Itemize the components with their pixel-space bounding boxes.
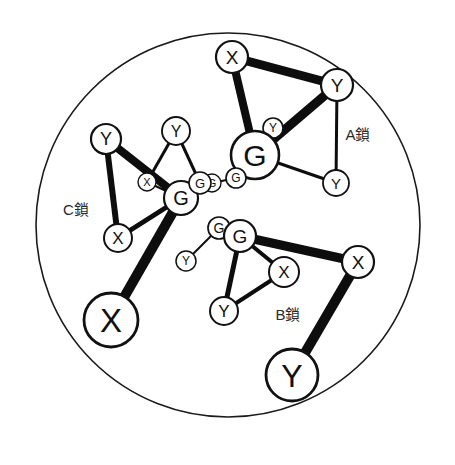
node-b-g-main[interactable]: G [224, 220, 256, 252]
node-c-y-left[interactable]: Y [91, 124, 121, 154]
node-label-a-y-lower: Y [331, 175, 341, 192]
node-label-b-y-small: Y [182, 254, 190, 268]
node-label-c-y-top: Y [171, 123, 182, 140]
node-label-c-g-main: G [173, 187, 189, 209]
node-label-c-x-small: X [143, 176, 151, 188]
node-a-g-mid[interactable]: G [226, 168, 246, 188]
node-label-a-y-right: Y [331, 75, 344, 96]
node-c-x-lower[interactable]: X [104, 224, 132, 252]
diagram-root: XYYGGGYGGYXYXYYYXGGXX A鎖B鎖C鎖 [0, 0, 455, 465]
node-label-b-y-bottom: Y [218, 302, 229, 321]
chain-diagram-canvas: XYYGGGYGGYXYXYYYXGGXX A鎖B鎖C鎖 [0, 0, 455, 465]
node-a-x-top[interactable]: X [216, 41, 248, 73]
node-label-a-g-mid: G [231, 171, 240, 185]
node-c-y-top[interactable]: Y [162, 117, 190, 145]
node-label-a-x-top: X [226, 47, 239, 68]
node-c-x-small[interactable]: X [138, 173, 156, 191]
node-label-b-x-right: X [278, 263, 289, 282]
node-b-x-outer[interactable]: X [342, 246, 374, 278]
node-c-x-outer[interactable]: X [84, 293, 138, 347]
node-label-a-g-main: G [243, 139, 266, 172]
node-label-c-g-small: G [195, 176, 205, 191]
node-a-y-right[interactable]: Y [321, 69, 353, 101]
node-label-b-y-outer: Y [281, 358, 302, 394]
node-label-b-g-small: G [214, 220, 225, 236]
node-label-b-g-main: G [233, 226, 248, 247]
node-b-x-right[interactable]: X [269, 257, 299, 287]
node-c-g-small[interactable]: G [189, 172, 211, 194]
node-b-y-small[interactable]: Y [176, 251, 196, 271]
chain-label-chain-a: A鎖 [345, 126, 370, 143]
node-label-c-x-outer: X [100, 302, 122, 339]
node-a-y-lower[interactable]: Y [323, 170, 349, 196]
node-b-y-outer[interactable]: Y [266, 349, 318, 401]
chain-label-chain-b: B鎖 [275, 306, 300, 323]
chain-label-chain-c: C鎖 [63, 201, 89, 218]
node-label-c-y-left: Y [100, 129, 112, 149]
node-label-b-x-outer: X [352, 252, 365, 273]
node-b-y-bottom[interactable]: Y [210, 297, 238, 325]
node-label-a-y-small: Y [269, 121, 277, 135]
node-label-c-x-lower: X [112, 229, 123, 248]
